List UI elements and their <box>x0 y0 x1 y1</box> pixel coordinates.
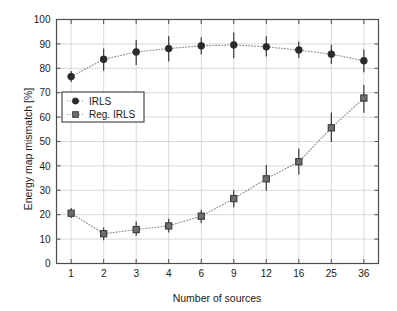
x-tick-label: 2 <box>101 268 107 279</box>
data-point-marker <box>165 45 172 52</box>
data-point-marker <box>101 231 107 237</box>
data-point-marker <box>166 223 172 229</box>
y-tick-label: 20 <box>39 209 51 220</box>
data-point-marker <box>68 73 75 80</box>
data-point-marker <box>296 159 302 165</box>
x-tick-label: 25 <box>326 268 338 279</box>
data-point-marker <box>360 57 367 64</box>
data-point-marker <box>133 226 139 232</box>
x-tick-label: 6 <box>198 268 204 279</box>
y-axis-title: Energy map mismatch [%] <box>22 88 34 211</box>
data-point-marker <box>198 213 204 219</box>
y-tick-label: 100 <box>34 14 51 25</box>
data-point-marker <box>198 42 205 49</box>
x-tick-label: 3 <box>133 268 139 279</box>
x-tick-label: 9 <box>231 268 237 279</box>
y-tick-label: 40 <box>39 161 51 172</box>
data-point-marker <box>361 95 367 101</box>
data-point-marker <box>328 51 335 58</box>
x-axis-title-wrap: Number of sources <box>56 288 378 306</box>
data-point-marker <box>68 210 74 216</box>
data-point-marker <box>263 43 270 50</box>
x-tick-label: 1 <box>68 268 74 279</box>
data-series-layer <box>68 32 368 240</box>
data-point-marker <box>230 41 237 48</box>
data-point-marker <box>295 47 302 54</box>
y-axis-title-wrap: Energy map mismatch [%] <box>18 69 36 229</box>
x-tick-label: 4 <box>166 268 172 279</box>
data-point-marker <box>328 125 334 131</box>
x-axis-title: Number of sources <box>173 292 262 304</box>
y-tick-label: 50 <box>39 136 51 147</box>
y-tick-label: 0 <box>45 258 51 269</box>
y-tick-label: 90 <box>39 39 51 50</box>
y-tick-label: 30 <box>39 185 51 196</box>
chart-plot-area: 010203040506070809010012346912162536 IRL… <box>0 0 397 311</box>
y-tick-label: 60 <box>39 112 51 123</box>
x-tick-label: 16 <box>293 268 305 279</box>
x-tick-label: 36 <box>358 268 370 279</box>
series-1 <box>68 32 368 82</box>
chart-legend: IRLSReg. IRLS <box>62 92 144 122</box>
data-point-marker <box>100 56 107 63</box>
y-tick-label: 80 <box>39 63 51 74</box>
legend-label-1: IRLS <box>89 96 112 107</box>
x-tick-label: 12 <box>261 268 273 279</box>
chart-figure: 010203040506070809010012346912162536 IRL… <box>0 0 397 311</box>
data-point-marker <box>133 49 140 56</box>
y-tick-label: 70 <box>39 87 51 98</box>
y-tick-label: 10 <box>39 234 51 245</box>
legend-marker-circle-icon <box>72 98 78 104</box>
data-point-marker <box>263 176 269 182</box>
legend-marker-square-icon <box>73 112 79 118</box>
series-line <box>71 45 364 77</box>
data-point-marker <box>231 195 237 201</box>
legend-label-2: Reg. IRLS <box>89 109 135 120</box>
